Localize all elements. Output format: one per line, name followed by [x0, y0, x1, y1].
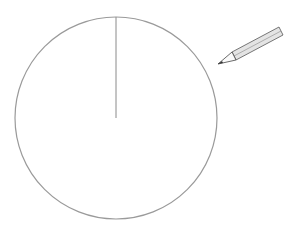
diagram-canvas: [0, 0, 294, 227]
pencil-icon: [218, 27, 283, 64]
